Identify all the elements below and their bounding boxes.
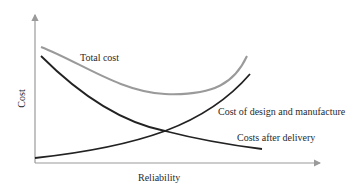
y-axis-label: Cost (16, 89, 27, 107)
costs-after-delivery-label: Costs after delivery (237, 132, 315, 143)
total-cost-label: Total cost (80, 52, 119, 63)
design-manufacture-label: Cost of design and manufacture (218, 106, 345, 117)
chart-canvas (0, 0, 350, 193)
total-cost-curve (41, 47, 247, 94)
x-axis-label: Reliability (138, 172, 180, 183)
